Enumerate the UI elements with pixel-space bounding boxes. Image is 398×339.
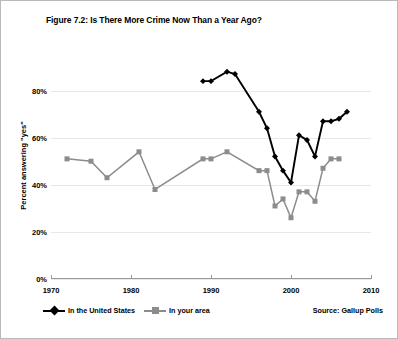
data-point <box>265 168 270 173</box>
y-tick-label: 80% <box>32 86 47 95</box>
data-point <box>337 156 342 161</box>
y-tick-label: 40% <box>32 180 47 189</box>
figure-title: Figure 7.2: Is There More Crime Now Than… <box>46 15 262 25</box>
y-axis-label: Percent answering "yes" <box>19 91 28 241</box>
series-layer <box>51 67 371 279</box>
x-tick-label: 2010 <box>363 286 380 295</box>
x-tick <box>371 275 372 279</box>
series-2 <box>65 149 342 220</box>
data-point <box>312 154 318 160</box>
square-marker-icon <box>144 307 166 315</box>
y-tick-label: 20% <box>32 227 47 236</box>
data-point <box>320 118 326 124</box>
data-point <box>65 156 70 161</box>
data-point <box>289 215 294 220</box>
data-point <box>257 168 262 173</box>
data-point <box>89 159 94 164</box>
data-point <box>281 196 286 201</box>
data-point <box>305 189 310 194</box>
series-line <box>67 152 339 218</box>
series-1 <box>200 69 350 186</box>
data-point <box>313 199 318 204</box>
data-point <box>273 203 278 208</box>
legend-entry[interactable]: In the United States <box>43 306 135 315</box>
diamond-marker-icon <box>43 307 65 315</box>
data-point <box>200 78 206 84</box>
x-tick-label: 1970 <box>43 286 60 295</box>
plot-area: 0%20%40%60%80% 19701980199020002010 <box>51 67 371 279</box>
gridline <box>51 279 371 280</box>
data-point <box>105 175 110 180</box>
data-point <box>297 189 302 194</box>
figure-container: Figure 7.2: Is There More Crime Now Than… <box>0 0 398 339</box>
data-point <box>328 118 334 124</box>
x-tick-label: 1990 <box>203 286 220 295</box>
data-point <box>321 166 326 171</box>
data-point <box>225 149 230 154</box>
data-point <box>137 149 142 154</box>
source-note: Source: Gallup Polls <box>313 306 383 315</box>
x-tick-label: 1980 <box>123 286 140 295</box>
data-point <box>201 156 206 161</box>
chart-legend: In the United StatesIn your area <box>43 306 210 315</box>
x-tick-label: 2000 <box>283 286 300 295</box>
legend-entry[interactable]: In your area <box>144 306 210 315</box>
data-point <box>153 187 158 192</box>
legend-label: In the United States <box>68 306 135 315</box>
data-point <box>264 125 270 131</box>
legend-label: In your area <box>169 306 210 315</box>
y-tick-label: 60% <box>32 133 47 142</box>
data-point <box>209 156 214 161</box>
data-point <box>329 156 334 161</box>
y-tick-label: 0% <box>36 275 47 284</box>
